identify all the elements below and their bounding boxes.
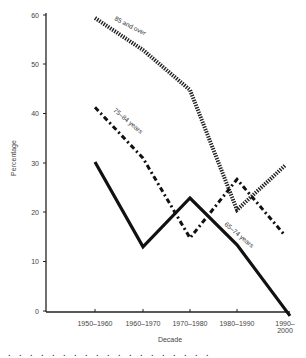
series-65-74-line <box>95 162 290 316</box>
y-tick-label: 20 <box>31 209 39 216</box>
y-tick-label: 10 <box>31 258 39 265</box>
series-label-75: 75–84 years <box>112 106 145 136</box>
x-tick-label-line2: 2000 <box>277 327 293 334</box>
x-axis-title: Decade <box>158 336 182 343</box>
y-tick-label: 40 <box>31 110 39 117</box>
x-tick-label: 1960–1970 <box>125 320 160 327</box>
y-tick-label: 50 <box>31 61 39 68</box>
y-ticks: 0 10 20 30 40 50 60 <box>31 12 46 315</box>
figure-caption-cropped: . . . . . . . . . . . . . . . . . . . <box>8 347 212 358</box>
x-tick-label: 1980–1990 <box>219 320 254 327</box>
series-75-84-line <box>95 107 285 238</box>
y-tick-label: 60 <box>31 12 39 19</box>
x-tick-label: 1990– <box>275 320 295 327</box>
x-tick-label: 1970–1980 <box>172 320 207 327</box>
series-label-85: 85 and over <box>114 15 149 37</box>
y-axis-title: Percentage <box>10 140 18 176</box>
x-ticks: 1950–1960 1960–1970 1970–1980 1980–1990 … <box>77 309 294 334</box>
y-tick-label: 30 <box>31 160 39 167</box>
x-tick-label: 1950–1960 <box>77 320 112 327</box>
y-tick-label: 0 <box>35 308 39 315</box>
